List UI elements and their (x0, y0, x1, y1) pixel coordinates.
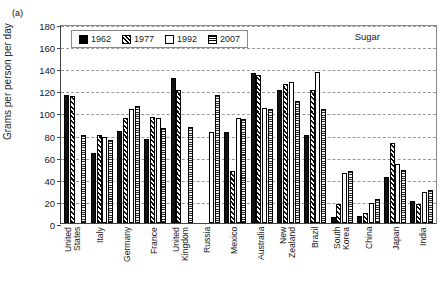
bar (295, 101, 300, 223)
bar (209, 132, 214, 223)
bar-group (248, 26, 275, 223)
bar (161, 128, 166, 223)
bar (262, 108, 267, 223)
bar (241, 119, 246, 223)
bar (277, 90, 282, 223)
bar (256, 75, 261, 223)
bar (336, 204, 341, 223)
bar (81, 135, 86, 223)
y-axis-tick-label: 40 (15, 175, 55, 186)
y-axis-tick-label: 160 (15, 43, 55, 54)
bar-group (302, 26, 329, 223)
bar (390, 143, 395, 223)
y-axis-tick-label: 120 (15, 87, 55, 98)
x-axis-label-text: United States (64, 227, 83, 295)
x-axis-label: United States (60, 227, 87, 295)
chart-figure: (a) Grams per person per day Sugar 1962 … (0, 0, 448, 297)
panel-label: (a) (12, 8, 23, 18)
bar (348, 171, 353, 223)
x-axis-label: Australia (248, 227, 275, 295)
bar (268, 109, 273, 223)
bar (310, 90, 315, 223)
bar-group (142, 26, 169, 223)
bar (384, 177, 389, 223)
bar (369, 203, 374, 223)
legend-item-1977: 1977 (122, 34, 154, 44)
bar-group (275, 26, 302, 223)
bar (251, 73, 256, 223)
bar-group (355, 26, 382, 223)
x-axis-label: China (356, 227, 383, 295)
bar (321, 109, 326, 223)
legend-label-2007: 2007 (220, 34, 240, 44)
y-axis-tick-label: 60 (15, 153, 55, 164)
x-axis-label-text: Australia (257, 227, 266, 295)
bar (156, 118, 161, 223)
x-axis-label: Italy (87, 227, 114, 295)
x-axis-label: France (141, 227, 168, 295)
x-axis-label: Russia (195, 227, 222, 295)
legend-swatch-1962-icon (79, 35, 88, 44)
bar (70, 96, 75, 223)
x-axis-label: United Kingdom (168, 227, 195, 295)
x-axis-label-text: Brazil (311, 227, 320, 295)
x-axis-label: South Korea (329, 227, 356, 295)
plot-area: Sugar 1962 1977 1992 2007 02040608010012… (60, 25, 437, 224)
bar-group (169, 26, 196, 223)
bar (289, 82, 294, 224)
x-axis-label-text: New Zealand (279, 227, 298, 295)
bar (304, 135, 309, 223)
bar-group (195, 26, 222, 223)
bar (236, 118, 241, 223)
legend-item-1962: 1962 (79, 34, 111, 44)
x-axis-label: Brazil (302, 227, 329, 295)
x-axis-label-text: Russia (203, 227, 212, 295)
x-axis-label: New Zealand (275, 227, 302, 295)
legend-swatch-2007-icon (208, 35, 217, 44)
bar (331, 217, 336, 223)
legend-label-1962: 1962 (91, 34, 111, 44)
bar (315, 72, 320, 223)
bar (117, 131, 122, 223)
y-axis-tick-label: 0 (15, 220, 55, 231)
x-axis-label-text: Japan (392, 227, 401, 295)
bar (410, 201, 415, 223)
x-axis-label-text: China (365, 227, 374, 295)
bar (363, 213, 368, 223)
legend-label-1992: 1992 (177, 34, 197, 44)
legend-swatch-1992-icon (165, 35, 174, 44)
x-axis-label: Mexico (222, 227, 249, 295)
legend-item-1992: 1992 (165, 34, 197, 44)
bar (150, 117, 155, 223)
bar (416, 204, 421, 223)
bar-group (382, 26, 409, 223)
x-axis-label: Japan (383, 227, 410, 295)
legend-label-1977: 1977 (134, 34, 154, 44)
bar (64, 95, 69, 223)
chart-legend: 1962 1977 1992 2007 (71, 30, 248, 48)
bar (428, 190, 433, 223)
x-axis-label-text: Mexico (230, 227, 239, 295)
x-axis-label-text: United Kingdom (172, 227, 191, 295)
bar (176, 90, 181, 223)
bar-group (115, 26, 142, 223)
bar-group (89, 26, 116, 223)
y-axis-tick-label: 180 (15, 21, 55, 32)
x-axis-label: India (410, 227, 437, 295)
bar (188, 127, 193, 223)
bar-group (222, 26, 249, 223)
x-axis-label-text: Italy (96, 227, 105, 295)
bar (97, 135, 102, 223)
y-axis-tick (57, 225, 61, 226)
bar (283, 84, 288, 223)
bar-groups (61, 26, 436, 223)
x-axis-labels: United StatesItalyGermanyFranceUnited Ki… (60, 227, 437, 295)
y-axis-tick-label: 140 (15, 65, 55, 76)
y-axis-tick-label: 80 (15, 131, 55, 142)
bar (108, 140, 113, 223)
bar (144, 139, 149, 223)
bar (171, 78, 176, 223)
y-axis-tick-label: 20 (15, 197, 55, 208)
bar-group (408, 26, 435, 223)
bar (422, 192, 427, 223)
